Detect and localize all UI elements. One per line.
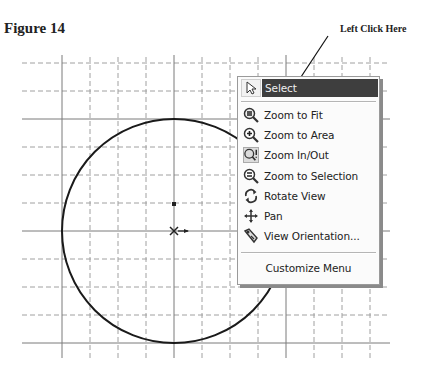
menu-separator [241, 252, 376, 254]
menu-item-label: Zoom to Selection [264, 170, 358, 182]
menu-item-label: View Orientation... [264, 230, 360, 242]
cursor-arrow-icon [241, 79, 261, 97]
menu-item-zoom-to-selection[interactable]: Zoom to Selection [238, 166, 379, 186]
menu-item-label: Customize Menu [266, 262, 352, 274]
menu-item-label: Zoom to Area [264, 129, 334, 141]
menu-item-label: Rotate View [264, 190, 326, 202]
menu-item-zoom-in-out[interactable]: Zoom In/Out [238, 145, 379, 165]
view-orientation-icon [243, 228, 259, 244]
menu-item-label: Pan [264, 210, 283, 222]
menu-item-zoom-to-fit[interactable]: Zoom to Fit [238, 105, 379, 125]
zoom-to-area-icon [243, 127, 259, 143]
menu-item-label: Select [265, 82, 297, 94]
menu-item-pan[interactable]: Pan [238, 206, 379, 226]
zoom-in-out-icon [243, 147, 259, 163]
rotate-view-icon [243, 188, 259, 204]
menu-item-rotate-view[interactable]: Rotate View [238, 186, 379, 206]
origin-marker [170, 202, 189, 235]
menu-item-select[interactable]: Select [238, 79, 379, 97]
zoom-to-selection-icon [243, 168, 259, 184]
menu-separator [241, 101, 376, 103]
context-menu: Select Zoom to Fit Zoom to Area Zoom In/… [237, 76, 380, 285]
menu-item-label: Zoom In/Out [264, 149, 329, 161]
menu-item-label: Zoom to Fit [264, 109, 323, 121]
menu-item-customize[interactable]: Customize Menu [238, 258, 379, 278]
zoom-to-fit-icon [243, 107, 259, 123]
menu-item-zoom-to-area[interactable]: Zoom to Area [238, 125, 379, 145]
pan-icon [243, 208, 259, 224]
menu-item-view-orientation[interactable]: View Orientation... [238, 226, 379, 246]
